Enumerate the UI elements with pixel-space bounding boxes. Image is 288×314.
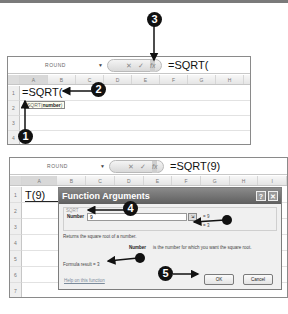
result-pointer-dot bbox=[222, 215, 232, 225]
callout-5: 5 bbox=[158, 266, 173, 281]
callout-3: 3 bbox=[147, 12, 162, 27]
callout-4: 4 bbox=[123, 201, 138, 216]
callout-1: 1 bbox=[18, 129, 33, 144]
callout-arrows bbox=[0, 0, 288, 314]
callout-2: 2 bbox=[91, 82, 106, 97]
formula-result-pointer-dot bbox=[135, 253, 145, 263]
